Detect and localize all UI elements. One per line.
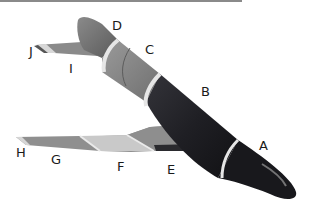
top-rule [0,0,242,2]
label-i: I [69,62,73,75]
label-j: J [29,45,33,58]
missile-diagram: A B C D E F G H I J [0,0,311,216]
label-g: G [51,153,61,166]
label-b: B [201,85,210,98]
label-f: F [117,160,124,173]
missile-illustration [0,0,311,216]
label-h: H [16,146,26,159]
label-c: C [145,43,154,56]
label-a: A [259,139,268,152]
label-e: E [167,163,175,176]
fuselage [77,17,296,199]
label-d: D [112,19,122,32]
